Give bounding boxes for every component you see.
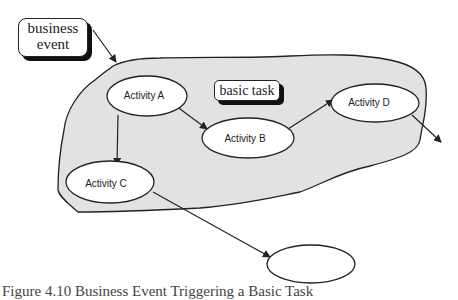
activity-a-label: Activity A xyxy=(124,90,165,101)
figure-caption: Figure 4.10 Business Event Triggering a … xyxy=(2,283,313,300)
activity-b-label: Activity B xyxy=(224,133,265,144)
business-event-line2: event xyxy=(19,36,87,52)
basic-task-callout: basic task xyxy=(214,80,280,101)
edge-business-event-to-task xyxy=(93,30,116,62)
business-event-callout: business event xyxy=(18,18,88,57)
activity-d-label: Activity D xyxy=(348,97,390,108)
activity-c-label: Activity C xyxy=(85,178,127,189)
activity-e-node[interactable] xyxy=(267,245,355,283)
business-event-line1: business xyxy=(19,20,87,36)
